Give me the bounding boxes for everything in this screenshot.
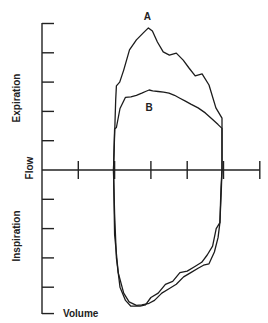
y-label-flow: Flow xyxy=(24,156,35,179)
axes xyxy=(42,23,260,314)
flow-volume-loop-chart: Expiration Flow Inspiration Volume A B xyxy=(0,0,268,323)
series-b-loop xyxy=(114,90,223,305)
series-label-a: A xyxy=(144,11,151,22)
x-label-volume: Volume xyxy=(63,308,99,319)
y-label-expiration: Expiration xyxy=(11,74,22,123)
y-label-inspiration: Inspiration xyxy=(11,210,22,261)
series-label-b: B xyxy=(145,102,152,113)
curves xyxy=(114,28,223,306)
